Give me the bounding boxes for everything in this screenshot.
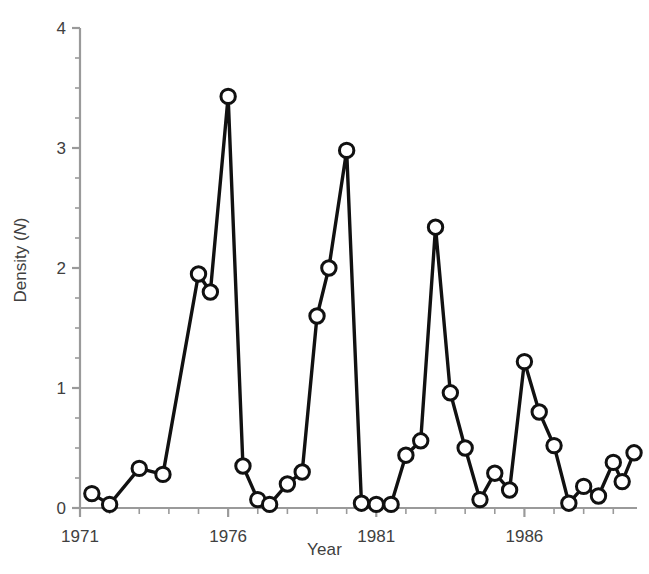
y-axis-title-text: Density ( [11,235,30,302]
data-point-marker [85,486,99,500]
y-axis-tick-label: 3 [57,139,66,158]
data-point-marker [339,143,353,157]
data-point-marker [191,267,205,281]
data-point-marker [591,489,605,503]
data-point-marker [221,89,235,103]
data-point-marker [262,497,276,511]
data-point-marker [473,492,487,506]
data-point-marker [102,497,116,511]
y-axis-title-close: ) [11,217,30,223]
density-line-chart: 012341971197619811986 [0,0,649,574]
y-axis-tick-label: 4 [57,19,66,38]
data-point-marker [156,467,170,481]
data-point-marker [354,496,368,510]
chart-figure: 012341971197619811986 Density (N) Year [0,0,649,574]
y-axis-title: Density (N) [6,0,36,520]
data-point-marker [532,405,546,419]
data-point-marker [502,483,516,497]
data-point-marker [280,477,294,491]
data-point-marker [369,497,383,511]
data-point-marker [384,497,398,511]
y-axis-title-italic: N [11,223,30,235]
data-point-marker [310,309,324,323]
data-point-marker [322,261,336,275]
y-axis-tick-label: 1 [57,379,66,398]
x-axis-title: Year [0,540,649,560]
data-point-marker [458,441,472,455]
data-point-marker [295,465,309,479]
data-point-marker [399,448,413,462]
y-axis-tick-label: 2 [57,259,66,278]
data-point-marker [627,446,641,460]
data-point-marker [236,459,250,473]
data-point-marker [203,285,217,299]
data-point-marker [517,354,531,368]
data-point-marker [606,455,620,469]
data-point-marker [488,466,502,480]
data-point-marker [443,386,457,400]
data-point-marker [132,461,146,475]
data-point-marker [547,438,561,452]
data-point-marker [562,496,576,510]
y-axis-tick-label: 0 [57,499,66,518]
data-point-marker [576,479,590,493]
data-point-marker [428,220,442,234]
data-point-marker [414,434,428,448]
data-point-marker [615,474,629,488]
